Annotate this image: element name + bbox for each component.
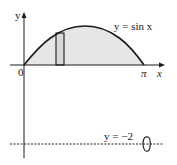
strip-rectangle — [56, 33, 64, 65]
pi-label: π — [141, 67, 147, 79]
origin-label: 0 — [18, 66, 24, 78]
y-axis-arrow-icon — [22, 12, 27, 18]
x-axis-label: x — [156, 67, 162, 79]
solid-of-revolution-diagram: y 0 π x y = sin x y = −2 — [0, 0, 177, 165]
line-label: y = −2 — [104, 130, 133, 142]
curve-label: y = sin x — [114, 20, 153, 32]
y-axis-label: y — [15, 9, 21, 21]
